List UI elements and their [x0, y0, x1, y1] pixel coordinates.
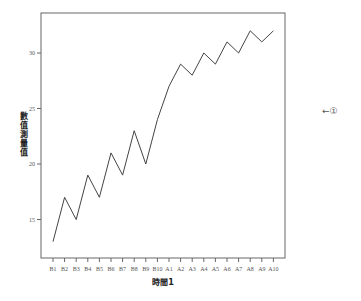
x-tick-label: A3 — [189, 266, 196, 272]
x-tick-label: A1 — [165, 266, 172, 272]
x-tick-label: A2 — [177, 266, 184, 272]
x-tick-label: A7 — [235, 266, 242, 272]
x-tick-label: A9 — [258, 266, 265, 272]
x-tick-label: A5 — [212, 266, 219, 272]
x-tick-label: B3 — [73, 266, 80, 272]
x-tick-label: B1 — [49, 266, 56, 272]
x-tick-label: A4 — [200, 266, 207, 272]
x-tick-label: A10 — [268, 266, 278, 272]
line-chart: 15202530 B1B2B3B4B5B6B7B8B9B10A1A2A3A4A5… — [0, 0, 361, 301]
x-tick-label: B8 — [131, 266, 138, 272]
y-axis-ticks: 15202530 — [29, 50, 41, 223]
x-tick-label: B10 — [152, 266, 162, 272]
x-tick-label: B7 — [119, 266, 126, 272]
y-tick-label: 20 — [29, 161, 35, 167]
x-tick-label: B2 — [61, 266, 68, 272]
x-tick-label: B5 — [96, 266, 103, 272]
annotation-marker: ←① — [322, 106, 338, 116]
plot-frame — [41, 13, 285, 258]
data-line — [53, 31, 273, 242]
y-tick-label: 25 — [29, 106, 35, 112]
y-axis-title: 數值測量值 — [17, 112, 27, 157]
x-axis-ticks: B1B2B3B4B5B6B7B8B9B10A1A2A3A4A5A6A7A8A9A… — [49, 258, 278, 272]
x-axis-title: 時間1 — [152, 277, 174, 287]
y-tick-label: 30 — [29, 50, 35, 56]
x-tick-label: B6 — [107, 266, 114, 272]
x-tick-label: B4 — [84, 266, 91, 272]
y-tick-label: 15 — [29, 217, 35, 223]
x-tick-label: B9 — [142, 266, 149, 272]
x-tick-label: A6 — [223, 266, 230, 272]
x-tick-label: A8 — [247, 266, 254, 272]
